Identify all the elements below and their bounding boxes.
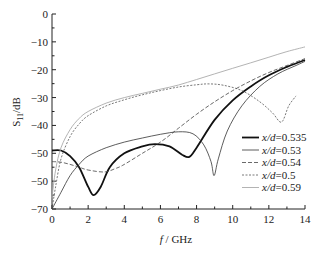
y-tick-label: −70 [31, 203, 49, 215]
y-tick-label: −20 [31, 64, 49, 76]
x-tick-label: 6 [158, 213, 164, 225]
legend: x/d=0.535x/d=0.53x/d=0.54x/d=0.5x/d=0.59 [242, 131, 307, 193]
x-axis-title: f / GHz [160, 233, 193, 245]
y-axis-title: S11/dB [10, 97, 25, 127]
y-tick-label: −50 [31, 147, 49, 159]
series-line-x-d-0-5 [52, 84, 296, 209]
legend-label: x/d=0.53 [261, 144, 301, 156]
x-tick-label: 12 [263, 213, 274, 225]
y-tick-label: −50 [31, 175, 49, 187]
y-tick-label: −30 [31, 92, 49, 104]
x-tick-label: 8 [194, 213, 200, 225]
y-tick-label: −10 [31, 36, 49, 48]
legend-label: x/d=0.535 [261, 131, 307, 143]
x-tick-label: 10 [227, 213, 239, 225]
x-tick-label: 2 [85, 213, 91, 225]
legend-label: x/d=0.59 [261, 181, 301, 193]
y-tick-label: 0 [43, 8, 49, 20]
x-tick-label: 0 [49, 213, 55, 225]
legend-label: x/d=0.5 [261, 169, 296, 181]
s11-chart: 0−10−20−30−40−50−50−70 02468101214 x/d=0… [0, 0, 325, 257]
x-tick-label: 4 [122, 213, 128, 225]
y-tick-label: −40 [31, 119, 49, 131]
x-tick-label: 14 [300, 213, 312, 225]
x-ticks: 02468101214 [49, 205, 311, 225]
legend-label: x/d=0.54 [261, 156, 301, 168]
